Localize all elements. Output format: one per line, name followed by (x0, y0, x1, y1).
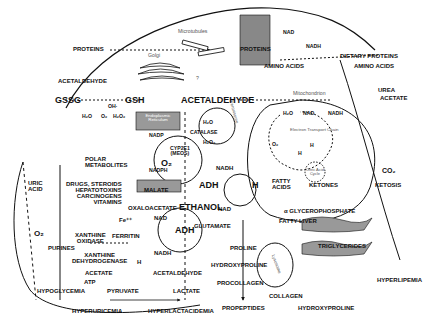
h2o2-catalase-label: H₂O₂ (203, 140, 215, 145)
hydroxyproline-out-label: HYDROXYPROLINE (298, 305, 354, 311)
h-mito-1-label: H (310, 143, 314, 148)
adh-lower-label: ADH (175, 226, 195, 235)
acetaldehyde-left-label: ACETALDEHYDE (58, 78, 107, 84)
fe-label: Fe⁺⁺ (119, 217, 132, 223)
etc-label: Electron Transport Chain (290, 128, 339, 132)
mitochondrion-outline (248, 100, 375, 222)
acetaldehyde-main-label: ACETALDEHYDE (181, 96, 254, 105)
gsh-label: GSH (125, 96, 145, 105)
malate-label: MALATE (144, 187, 169, 193)
urea-label: UREA (378, 87, 395, 93)
catalase-label: CATALASE (190, 130, 217, 135)
procollagen-label: PROCOLLAGEN (217, 280, 264, 286)
nadh-top-label: NADH (306, 44, 321, 49)
ethanol-label: ETHANOL (179, 203, 223, 212)
proteins-in-label: PROTEINS (240, 46, 271, 52)
ketosis-label: KETOSIS (375, 182, 401, 188)
h2o-catalase-label: H₂O (203, 120, 213, 125)
polar-metabolites-label: POLAR METABOLITES (85, 156, 128, 168)
proline-label: PROLINE (230, 245, 257, 251)
fatty-liver-label: FATTY LIVER (279, 218, 317, 224)
nad-low-label: NAD (154, 215, 167, 221)
uric-acid-label: URIC ACID (28, 180, 43, 192)
glutamate-label: GLUTAMATE (194, 223, 231, 229)
propeptides-label: PROPEPTIDES (222, 305, 265, 311)
xanthine-dehydrogenase-label: XANTHINE DEHYDROGENASE (72, 252, 127, 264)
lactate-label: LACTATE (173, 288, 200, 294)
acetate-low-label: ACETATE (85, 270, 112, 276)
golgi-question: ? (196, 76, 199, 81)
adh-upper-label: ADH (199, 181, 219, 190)
nad-mito-label: NAD (303, 111, 314, 116)
xanthine-oxidase-label: XANTHINE OXIDASE (75, 232, 106, 244)
nad-top-label: NAD (283, 30, 294, 35)
gssg-label: GSSG (55, 96, 81, 105)
amino-acids-in-label: AMINO ACIDS (264, 63, 304, 69)
pyruvate-label: PYRUVATE (107, 288, 139, 294)
ferritin-label: FERRITIN (112, 233, 140, 239)
rough-er-icon (240, 15, 270, 65)
h2o-label: H₂O (82, 114, 92, 119)
o2-mito-label: O₂ (272, 142, 278, 147)
oxaloacetate-label: OXALOACETATE (128, 205, 177, 211)
hyperlactacidemia-label: HYPERLACTACIDEMIA (148, 308, 214, 314)
oh-radical-label: OH· (108, 104, 118, 109)
metabolism-diagram (0, 0, 425, 320)
ketones-label: KETONES (309, 182, 338, 188)
o2-left-label: O₂ (34, 230, 44, 238)
h-big-label: H (252, 181, 259, 190)
glycerophosphate-label: α GLYCEROPHOSPHATE (284, 208, 355, 214)
microtubules-label: Microtubules (178, 29, 207, 34)
fatty-acids-label: FATTY ACIDS (272, 178, 291, 190)
dietary-proteins-label: DIETARY PROTEINS (340, 53, 398, 59)
golgi-label: Golgi (148, 53, 160, 58)
golgi-icon (138, 63, 184, 80)
amino-acids-out-label: AMINO ACIDS (354, 63, 394, 69)
nadph-label: NADPH (149, 168, 167, 173)
h2o2-label: H₂O₂ (113, 114, 125, 119)
mitochondrion-label: Mitochondrion (293, 91, 326, 96)
h-low-label: H (137, 259, 141, 265)
h-mito-2-label: H (298, 151, 302, 156)
citric-cycle-label: Citric Acid Cycle (306, 168, 324, 176)
acetate-out-label: ACETATE (380, 95, 407, 101)
o2-label: O₂ (101, 114, 107, 119)
acetaldehyde-low-label: ACETALDEHYDE (153, 270, 202, 276)
hyperlipemia-label: HYPERLIPEMIA (377, 277, 422, 283)
purines-label: PURINES (48, 245, 75, 251)
nadh-low-label: NADH (154, 250, 171, 256)
microtubules-icon (182, 40, 224, 56)
proteins-out-label: PROTEINS (73, 46, 104, 52)
nadp-label: NADP (149, 133, 164, 138)
nadh-mid-label: NADH (216, 165, 233, 171)
collagen-label: COLLAGEN (269, 293, 303, 299)
cyp2e1-label: CYP2E1 (MEOS) (170, 146, 190, 156)
hydroxyproline-in-label: HYDROXYPROLINE (211, 262, 267, 268)
nadh-mito-label: NADH (328, 111, 343, 116)
co2-label: CO₂ (382, 167, 396, 174)
hypoglycemia-label: HYPOGLYCEMIA (37, 288, 85, 294)
atp-label: ATP (84, 279, 96, 285)
h2o-mito-label: H₂O (283, 111, 293, 116)
er-label: Endoplasmic Reticulum (136, 114, 180, 123)
hyperuricemia-label: HYPERURICEMIA (72, 308, 122, 314)
drugs-label: DRUGS, STEROIDS HEPATOTOXINS CARCINOGENS… (66, 181, 122, 205)
triglycerides-label: TRIGLYCERIDES (318, 243, 366, 249)
nad-mid-label: NAD (218, 206, 231, 212)
